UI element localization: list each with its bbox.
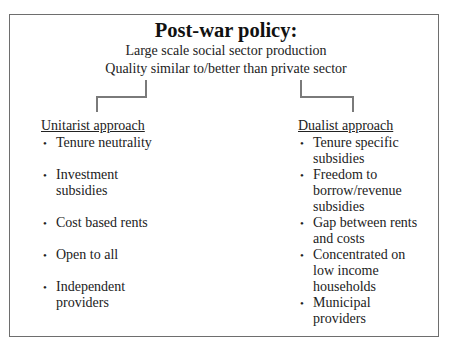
list-item-text: Tenure specific subsidies bbox=[313, 135, 399, 166]
unitarist-branch: Unitarist approach • Tenure neutrality •… bbox=[41, 118, 211, 311]
list-item: • Cost based rents bbox=[41, 215, 211, 231]
list-item-text: Gap between rents and costs bbox=[313, 215, 417, 246]
list-item-text: Tenure neutrality bbox=[56, 135, 152, 150]
list-item-text: Concentrated on low income households bbox=[313, 247, 405, 294]
right-connector-horizontal bbox=[300, 96, 353, 98]
bullet-icon: • bbox=[43, 215, 47, 231]
left-connector-bottom-vertical bbox=[96, 96, 98, 112]
subtitle-line-2: Quality similar to/better than private s… bbox=[0, 60, 452, 77]
list-item: • Concentrated on low income households bbox=[298, 247, 413, 295]
bullet-icon: • bbox=[300, 135, 304, 151]
diagram-title: Post-war policy: bbox=[0, 18, 452, 42]
subtitle-line-1: Large scale social sector production bbox=[0, 42, 452, 59]
unitarist-heading: Unitarist approach bbox=[41, 118, 211, 134]
dualist-list: • Tenure specific subsidies • Freedom to… bbox=[298, 135, 438, 327]
list-item: • Open to all bbox=[41, 247, 211, 263]
list-item-text: Cost based rents bbox=[56, 215, 148, 230]
list-item: • Investment subsidies bbox=[41, 167, 146, 199]
right-connector-bottom-vertical bbox=[352, 96, 354, 112]
right-connector-top-vertical bbox=[300, 80, 302, 97]
bullet-icon: • bbox=[43, 167, 47, 183]
list-item-text: Open to all bbox=[56, 247, 118, 262]
bullet-icon: • bbox=[300, 167, 304, 183]
list-item-text: Investment subsidies bbox=[56, 167, 118, 198]
bullet-icon: • bbox=[300, 247, 304, 263]
list-item-text: Municipal providers bbox=[313, 295, 371, 326]
dualist-heading: Dualist approach bbox=[298, 118, 438, 134]
bullet-icon: • bbox=[300, 215, 304, 231]
dualist-branch: Dualist approach • Tenure specific subsi… bbox=[298, 118, 438, 327]
list-item: • Municipal providers bbox=[298, 295, 413, 327]
bullet-icon: • bbox=[300, 295, 304, 311]
list-item: • Independent providers bbox=[41, 279, 151, 311]
bullet-icon: • bbox=[43, 247, 47, 263]
bullet-icon: • bbox=[43, 135, 47, 151]
left-connector-top-vertical bbox=[145, 80, 147, 97]
bullet-icon: • bbox=[43, 279, 47, 295]
left-connector-horizontal bbox=[96, 96, 147, 98]
list-item: • Tenure specific subsidies bbox=[298, 135, 413, 167]
list-item-text: Independent providers bbox=[56, 279, 125, 310]
list-item: • Gap between rents and costs bbox=[298, 215, 421, 247]
list-item: • Tenure neutrality bbox=[41, 135, 211, 151]
list-item: • Freedom to borrow/revenue subsidies bbox=[298, 167, 413, 215]
unitarist-list: • Tenure neutrality • Investment subsidi… bbox=[41, 135, 211, 311]
list-item-text: Freedom to borrow/revenue subsidies bbox=[313, 167, 402, 214]
